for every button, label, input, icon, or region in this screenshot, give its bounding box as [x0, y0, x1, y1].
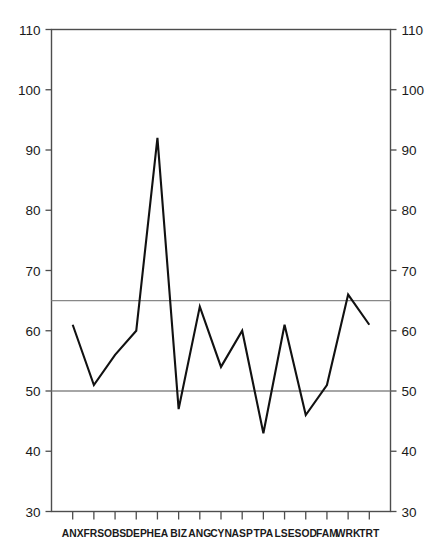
- y-tick-label-right-50: 50: [402, 384, 417, 399]
- x-axis-ticks: [73, 512, 370, 520]
- x-tick-label-WRK: WRK: [336, 528, 361, 539]
- x-axis-labels: ANXFRSOBSDEPHEABIZANGCYNASPTPALSESODFAMW…: [62, 528, 380, 539]
- y-tick-label-right-80: 80: [402, 203, 417, 218]
- y-tick-label-left-50: 50: [25, 384, 40, 399]
- y-tick-label-left-70: 70: [25, 264, 40, 279]
- x-tick-label-ASP: ASP: [232, 528, 253, 539]
- x-tick-label-ANG: ANG: [188, 528, 211, 539]
- reference-lines-group: [52, 301, 391, 391]
- y-tick-label-right-100: 100: [402, 83, 425, 98]
- x-tick-label-SOD: SOD: [295, 528, 317, 539]
- y-tick-label-right-30: 30: [402, 505, 417, 520]
- y-tick-label-left-110: 110: [19, 23, 41, 38]
- y-tick-label-left-90: 90: [25, 143, 40, 158]
- x-tick-label-LSE: LSE: [275, 528, 295, 539]
- x-tick-label-HEA: HEA: [147, 528, 169, 539]
- y-axis-left: 30405060708090100110: [18, 23, 52, 520]
- y-tick-label-left-30: 30: [25, 505, 40, 520]
- y-tick-label-right-110: 110: [402, 23, 424, 38]
- y-tick-label-right-70: 70: [402, 264, 417, 279]
- data-series-line: [73, 138, 370, 433]
- y-tick-label-right-40: 40: [402, 444, 417, 459]
- x-tick-label-OBS: OBS: [104, 528, 126, 539]
- x-tick-label-FRS: FRS: [84, 528, 105, 539]
- line-chart-figure: 30405060708090100110 3040506070809010011…: [0, 0, 441, 558]
- plot-frame: [52, 30, 391, 512]
- y-tick-label-left-100: 100: [18, 83, 41, 98]
- x-tick-label-FAM: FAM: [316, 528, 338, 539]
- x-tick-label-TPA: TPA: [253, 528, 273, 539]
- x-tick-label-DEP: DEP: [126, 528, 147, 539]
- y-tick-label-left-60: 60: [25, 324, 40, 339]
- y-tick-label-left-80: 80: [25, 203, 40, 218]
- chart-canvas: 30405060708090100110 3040506070809010011…: [0, 0, 441, 558]
- y-tick-label-right-90: 90: [402, 143, 417, 158]
- y-axis-right: 30405060708090100110: [391, 23, 425, 520]
- y-tick-label-left-40: 40: [25, 444, 40, 459]
- x-tick-label-BIZ: BIZ: [170, 528, 187, 539]
- x-tick-label-TRT: TRT: [359, 528, 380, 539]
- y-tick-label-right-60: 60: [402, 324, 417, 339]
- x-tick-label-ANX: ANX: [62, 528, 84, 539]
- x-tick-label-CYN: CYN: [210, 528, 232, 539]
